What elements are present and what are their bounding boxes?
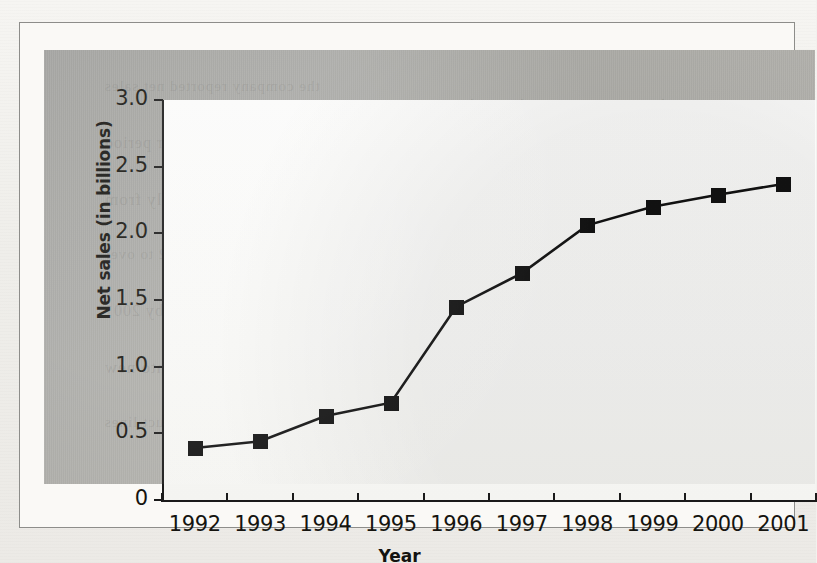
data-point-marker [515,266,530,281]
data-point-marker [384,396,399,411]
x-axis-title-text: Year [378,546,420,563]
data-point-marker [449,300,464,315]
data-point-marker [580,218,595,233]
x-tick-label: 2001 [751,512,816,536]
data-point-marker [253,434,268,449]
data-point-marker [711,188,726,203]
y-tick-label: 1.0 [48,353,148,377]
x-tick-label: 1994 [293,512,358,536]
x-tick-label: 1996 [424,512,489,536]
x-tick-label: 1995 [358,512,423,536]
y-axis-title-text: Net sales (in billions) [94,121,114,320]
data-point-marker [646,200,661,215]
y-tick-label: 0 [48,486,148,510]
x-tick-label: 1997 [489,512,554,536]
y-tick-label: 0.5 [48,419,148,443]
data-point-marker [776,177,791,192]
data-point-marker [319,409,334,424]
figure-frame: the company reported net salesthe compan… [19,22,795,528]
x-axis-title: Year [44,546,815,563]
y-axis-title: Net sales (in billions) [94,100,114,340]
x-tick-label: 1998 [554,512,619,536]
x-tick-label: 1992 [162,512,227,536]
data-point-marker [188,441,203,456]
chart-panel: the company reported net salesthe compan… [44,50,815,484]
x-tick-label: 1999 [620,512,685,536]
x-tick-label: 1993 [227,512,292,536]
x-tick-label: 2000 [685,512,750,536]
